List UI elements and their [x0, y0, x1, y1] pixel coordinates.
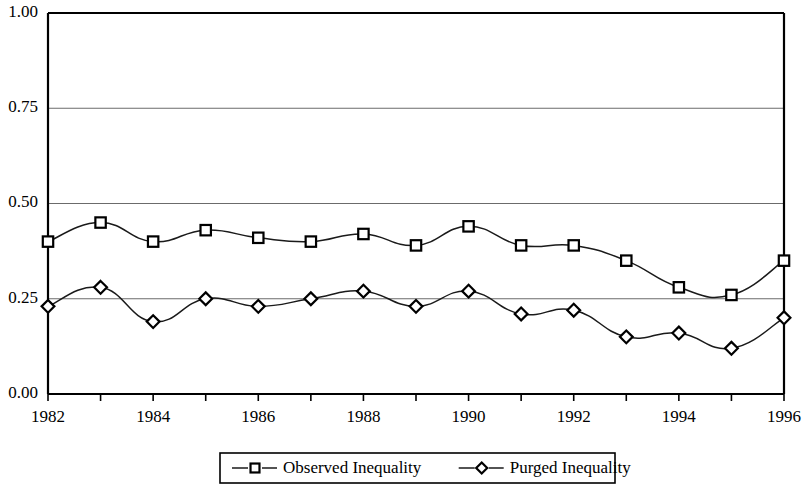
data-point-diamond-marker: [778, 311, 791, 324]
series-line: [48, 287, 784, 349]
data-point-square-marker: [726, 290, 736, 300]
data-point-square-marker: [201, 225, 211, 235]
data-point-diamond-marker: [252, 300, 265, 313]
data-point-square-marker: [569, 240, 579, 250]
data-point-diamond-marker: [199, 292, 212, 305]
line-chart: 1.000.750.500.250.00 1982198419861988199…: [0, 0, 806, 486]
data-point-diamond-marker: [725, 342, 738, 355]
data-point-square-marker: [306, 236, 316, 246]
y-axis-labels: 1.000.750.500.250.00: [8, 2, 38, 402]
data-point-square-marker: [621, 255, 631, 265]
x-axis-tick-label: 1988: [346, 407, 380, 426]
chart-series: [42, 217, 791, 354]
data-point-diamond-marker: [42, 300, 55, 313]
data-point-square-marker: [95, 217, 105, 227]
y-axis-tick-label: 0.50: [8, 192, 38, 211]
gridlines: [48, 108, 784, 299]
data-point-square-marker: [43, 236, 53, 246]
x-axis-labels: 19821984198619881990199219941996: [31, 407, 801, 426]
x-axis-tick-label: 1984: [136, 407, 171, 426]
x-axis-tick-label: 1986: [241, 407, 275, 426]
data-point-square-marker: [148, 236, 158, 246]
data-point-diamond-marker: [620, 330, 633, 343]
data-point-diamond-marker: [94, 281, 107, 294]
data-point-square-marker: [253, 233, 263, 243]
data-point-diamond-marker: [567, 304, 580, 317]
data-point-square-marker: [516, 240, 526, 250]
data-point-diamond-marker: [410, 300, 423, 313]
legend-label: Observed Inequality: [283, 458, 422, 477]
x-axis-tick-label: 1994: [662, 407, 697, 426]
y-axis-tick-label: 0.25: [8, 288, 38, 307]
data-point-square-marker: [358, 229, 368, 239]
x-axis-tick-label: 1992: [557, 407, 591, 426]
legend-label: Purged Inequality: [510, 458, 632, 477]
data-point-diamond-marker: [515, 308, 528, 321]
y-axis-tick-label: 0.75: [8, 97, 38, 116]
chart-container: 1.000.750.500.250.00 1982198419861988199…: [0, 0, 806, 486]
data-point-square-marker: [251, 464, 260, 473]
data-point-diamond-marker: [304, 292, 317, 305]
y-axis-tick-label: 1.00: [8, 2, 38, 21]
data-point-square-marker: [463, 221, 473, 231]
y-axis-tick-label: 0.00: [8, 383, 38, 402]
data-point-diamond-marker: [147, 315, 160, 328]
data-point-diamond-marker: [672, 327, 685, 340]
data-point-square-marker: [411, 240, 421, 250]
data-point-diamond-marker: [357, 285, 370, 298]
series-1: [43, 217, 789, 300]
x-axis-tick-label: 1996: [767, 407, 801, 426]
data-point-diamond-marker: [462, 285, 475, 298]
x-axis-tick-label: 1990: [452, 407, 486, 426]
chart-legend: Observed InequalityPurged Inequality: [220, 453, 631, 483]
x-axis-tick-label: 1982: [31, 407, 65, 426]
data-point-square-marker: [674, 282, 684, 292]
data-point-square-marker: [779, 255, 789, 265]
